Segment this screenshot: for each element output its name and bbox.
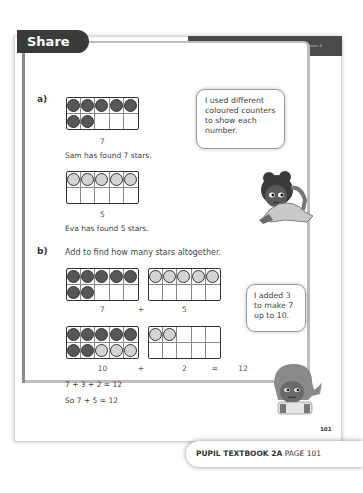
dark-counter-icon xyxy=(124,328,137,341)
ten-frame-b2-right xyxy=(148,326,221,359)
footer-page-reference: PUPIL TEXTBOOK 2A PAGE 101 xyxy=(186,441,363,467)
ten-frame-cell xyxy=(81,188,95,204)
dark-counter-icon xyxy=(124,270,137,283)
ten-frame-cell xyxy=(206,343,220,359)
ten-frame-cell xyxy=(110,343,124,359)
ten-frame-cell xyxy=(110,114,124,130)
dark-counter-icon xyxy=(67,270,80,283)
light-counter-icon xyxy=(192,270,205,283)
ten-frame-cell xyxy=(95,172,109,188)
dark-counter-icon xyxy=(81,328,94,341)
part-b-label: b) xyxy=(37,246,48,256)
speech-bubble-counters: I used different coloured counters to sh… xyxy=(196,89,285,149)
dark-counter-icon xyxy=(124,99,137,112)
ten-frame-cell xyxy=(124,98,138,114)
ten-frame-cell xyxy=(110,269,124,285)
ten-frame-cell xyxy=(95,285,109,301)
ten-frame-b1-right xyxy=(148,268,221,301)
ten-frame-cell xyxy=(110,188,124,204)
row1-left-number: 7 xyxy=(66,305,139,314)
ten-frame-cell xyxy=(192,269,206,285)
dark-counter-icon xyxy=(81,344,94,357)
light-counter-icon xyxy=(110,344,123,357)
dark-counter-icon xyxy=(67,328,80,341)
light-counter-icon xyxy=(163,270,176,283)
ten-frame-cell xyxy=(149,327,163,343)
ten-frame-cell xyxy=(95,98,109,114)
light-counter-icon xyxy=(149,270,162,283)
ten-frame-cell xyxy=(81,327,95,343)
ten-frame-cell xyxy=(67,98,81,114)
ten-frame-cell xyxy=(81,285,95,301)
share-box-accent xyxy=(22,52,25,383)
ten-frame-cell xyxy=(67,188,81,204)
ten-frame-cell xyxy=(192,327,206,343)
ten-frame-cell xyxy=(67,269,81,285)
row2-operator: + xyxy=(134,364,148,373)
ten-frame-cell xyxy=(177,285,191,301)
light-counter-icon xyxy=(95,344,108,357)
dark-counter-icon xyxy=(67,115,80,128)
ten-frame-cell xyxy=(67,172,81,188)
ten-frame-cell xyxy=(124,343,138,359)
footer-page: PAGE 101 xyxy=(285,449,321,458)
equation-1: 7 + 3 + 2 = 12 xyxy=(65,380,122,389)
ten-frame-cell xyxy=(124,327,138,343)
character-girl-lying-icon xyxy=(255,170,317,236)
dark-counter-icon xyxy=(67,344,80,357)
dark-counter-icon xyxy=(81,115,94,128)
light-counter-icon xyxy=(124,173,137,186)
ten-frame-cell xyxy=(192,343,206,359)
row1-operator: + xyxy=(134,305,148,314)
light-counter-icon xyxy=(95,173,108,186)
character-girl-thinking-icon xyxy=(268,360,324,416)
row1-right-number: 5 xyxy=(148,305,221,314)
sam-caption: Sam has found 7 stars. xyxy=(65,151,152,160)
eva-number: 5 xyxy=(66,210,139,219)
sam-number: 7 xyxy=(66,137,139,146)
ten-frame-cell xyxy=(163,327,177,343)
dark-counter-icon xyxy=(67,286,80,299)
light-counter-icon xyxy=(81,173,94,186)
ten-frame-cell xyxy=(81,114,95,130)
ten-frame-cell xyxy=(95,327,109,343)
ten-frame-eva xyxy=(66,171,139,204)
light-counter-icon xyxy=(110,173,123,186)
equation-2: So 7 + 5 = 12 xyxy=(65,396,118,405)
ten-frame-cell xyxy=(124,188,138,204)
dark-counter-icon xyxy=(95,99,108,112)
ten-frame-cell xyxy=(177,327,191,343)
ten-frame-cell xyxy=(149,269,163,285)
ten-frame-cell xyxy=(67,327,81,343)
dark-counter-icon xyxy=(110,270,123,283)
row2-result: 12 xyxy=(236,364,250,373)
dark-counter-icon xyxy=(95,328,108,341)
ten-frame-cell xyxy=(124,172,138,188)
light-counter-icon xyxy=(177,270,190,283)
ten-frame-cell xyxy=(95,343,109,359)
light-counter-icon xyxy=(149,328,162,341)
light-counter-icon xyxy=(124,344,137,357)
part-b-instruction: Add to find how many stars altogether. xyxy=(65,248,221,257)
ten-frame-cell xyxy=(124,285,138,301)
row2-left-number: 10 xyxy=(66,364,139,373)
ten-frame-b1-left xyxy=(66,268,139,301)
ten-frame-cell xyxy=(81,343,95,359)
light-counter-icon xyxy=(163,328,176,341)
part-a-label: a) xyxy=(37,94,47,104)
ten-frame-cell xyxy=(67,285,81,301)
ten-frame-cell xyxy=(163,343,177,359)
ten-frame-b2-left xyxy=(66,326,139,359)
ten-frame-cell xyxy=(206,327,220,343)
footer-book-title: PUPIL TEXTBOOK 2A xyxy=(196,449,282,458)
dark-counter-icon xyxy=(81,286,94,299)
ten-frame-cell xyxy=(67,114,81,130)
ten-frame-cell xyxy=(124,269,138,285)
ten-frame-cell xyxy=(149,343,163,359)
ten-frame-cell xyxy=(206,269,220,285)
ten-frame-cell xyxy=(149,285,163,301)
ten-frame-cell xyxy=(110,172,124,188)
dark-counter-icon xyxy=(110,328,123,341)
ten-frame-sam xyxy=(66,97,139,130)
ten-frame-cell xyxy=(95,188,109,204)
